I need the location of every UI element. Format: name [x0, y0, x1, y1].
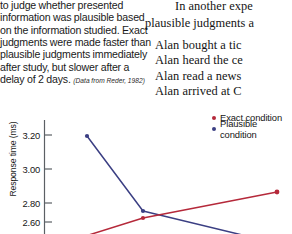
caption-line-6: after study, but slower after a — [0, 61, 152, 73]
chart-plot-area — [0, 118, 292, 234]
caption-line-3: on the information studied. Exact — [0, 24, 152, 36]
list-item: Alan arrived at C — [155, 84, 292, 99]
caption-line-1: to judge whether presented — [0, 0, 152, 11]
data-point-plausible — [141, 209, 145, 213]
caption-last-line: delay of 2 days. — [0, 73, 71, 85]
data-point-exact — [141, 216, 145, 220]
caption-citation: (Data from Reder, 1982) — [73, 77, 145, 84]
caption-line-4: judgments were made faster than — [0, 36, 152, 48]
body-text-column: In another expeplausible judgments a Ala… — [155, 0, 292, 99]
caption-line-7: delay of 2 days. (Data from Reder, 1982) — [0, 73, 152, 87]
figure-caption: to judge whether presented information w… — [0, 0, 152, 87]
body-paragraph: In another expeplausible judgments a — [155, 0, 292, 31]
series-line-exact — [60, 192, 277, 234]
textbook-page-fragment: to judge whether presented information w… — [0, 0, 292, 234]
example-sentence-list: Alan bought a tic Alan heard the ce Alan… — [155, 38, 292, 99]
caption-line-5: plausible judgments immediately — [0, 48, 152, 60]
data-point-plausible — [85, 134, 89, 138]
body-paragraph-line-1: In another expe — [175, 0, 253, 13]
caption-line-2: information was plausible based — [0, 11, 152, 23]
list-item: Alan read a news — [155, 69, 292, 84]
series-line-plausible — [87, 136, 292, 234]
list-item: Alan heard the ce — [155, 53, 292, 68]
list-item: Alan bought a tic — [155, 38, 292, 53]
line-chart: Response time (ms) 3.20 3.00 2.80 2.60 — [0, 118, 292, 234]
data-point-exact — [275, 190, 280, 195]
body-paragraph-line-2: plausible judgments a — [145, 15, 292, 32]
